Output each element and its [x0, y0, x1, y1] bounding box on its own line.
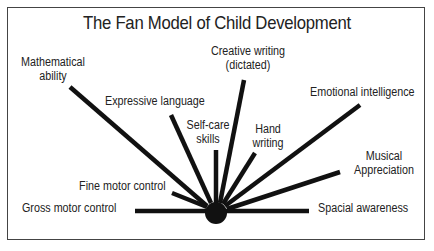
label-mathematical-ability: Mathematical ability	[19, 56, 86, 83]
label-line: Self-care	[182, 119, 234, 133]
hub-circle	[205, 202, 227, 224]
label-hand-writing: Hand writing	[247, 123, 290, 150]
label-gross-motor-control: Gross motor control	[22, 202, 116, 216]
label-line: Mathematical	[19, 56, 86, 70]
label-self-care-skills: Self-care skills	[182, 119, 234, 146]
label-line: (dictated)	[205, 59, 291, 73]
label-spacial-awareness: Spacial awareness	[318, 202, 408, 216]
label-line: skills	[182, 133, 234, 147]
label-line: Creative writing	[205, 45, 291, 59]
label-line: Appreciation	[350, 164, 419, 178]
label-musical-appreciation: Musical Appreciation	[350, 150, 419, 177]
label-fine-motor-control: Fine motor control	[79, 180, 166, 194]
label-line: ability	[19, 70, 86, 84]
label-creative-writing: Creative writing (dictated)	[205, 45, 291, 72]
spoke-emotional-intelligence	[225, 105, 360, 206]
label-line: Hand	[247, 123, 290, 137]
label-expressive-language: Expressive language	[105, 95, 205, 109]
label-line: writing	[247, 137, 290, 151]
label-line: Musical	[350, 150, 419, 164]
label-emotional-intelligence: Emotional intelligence	[310, 86, 415, 100]
